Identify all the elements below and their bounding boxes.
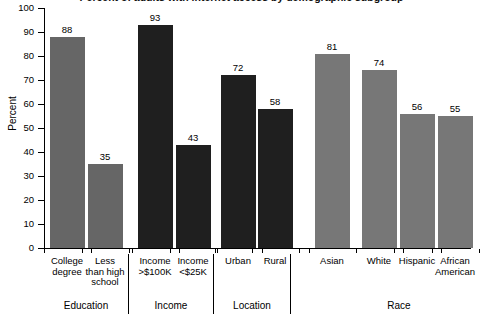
bar-hispanic-value-label: 56 — [397, 102, 437, 112]
x-tick-11 — [299, 249, 300, 253]
x-tick-14 — [356, 249, 357, 253]
x-tick-5 — [179, 249, 180, 253]
y-tick-label-30: 30 — [0, 171, 34, 181]
x-tick-6 — [170, 249, 171, 253]
bar-college-degree-value-label: 88 — [47, 25, 87, 35]
y-tick-label-40: 40 — [0, 147, 34, 157]
x-tick-4 — [132, 249, 133, 253]
bar-income-over-100k — [138, 25, 173, 248]
x-tick-3 — [129, 249, 130, 253]
bar-income-under-25k — [176, 145, 211, 248]
bar-income-over-100k-value-label: 93 — [135, 13, 175, 23]
category-label-line: African — [428, 256, 482, 267]
y-tick-label-50: 50 — [0, 123, 34, 133]
y-tick-70 — [38, 80, 44, 81]
y-tick-60 — [38, 104, 44, 105]
y-tick-label-10: 10 — [0, 219, 34, 229]
x-tick-0 — [44, 249, 45, 253]
bar-chart: Percent of adults with internet access b… — [0, 0, 483, 319]
category-label-less-than-hs: Lessthan highschool — [78, 256, 132, 288]
category-label-asian: Asian — [305, 256, 359, 267]
x-tick-2 — [82, 249, 83, 253]
category-label-rural: Rural — [248, 256, 302, 267]
x-tick-18 — [432, 249, 433, 253]
bar-urban-value-label: 72 — [218, 63, 258, 73]
bar-less-than-hs — [88, 164, 123, 248]
bar-white — [362, 70, 397, 248]
category-label-line: American — [428, 267, 482, 278]
y-tick-50 — [38, 128, 44, 129]
y-tick-40 — [38, 152, 44, 153]
y-tick-label-80: 80 — [0, 51, 34, 61]
x-tick-7 — [217, 249, 218, 253]
x-tick-9 — [262, 249, 263, 253]
category-label-line: Less — [78, 256, 132, 267]
y-tick-80 — [38, 56, 44, 57]
bar-hispanic — [400, 114, 435, 248]
category-label-african-american: AfricanAmerican — [428, 256, 482, 277]
x-tick-12 — [309, 249, 310, 253]
y-axis-title: Percent — [7, 79, 18, 149]
category-label-line: <$25K — [166, 267, 220, 278]
category-label-line: school — [78, 277, 132, 288]
y-tick-20 — [38, 200, 44, 201]
bar-less-than-hs-value-label: 35 — [85, 152, 125, 162]
bar-urban — [221, 75, 256, 248]
bar-white-value-label: 74 — [359, 58, 399, 68]
x-tick-10 — [252, 249, 253, 253]
bar-rural — [258, 109, 293, 248]
x-tick-19 — [479, 249, 480, 253]
y-tick-label-90: 90 — [0, 27, 34, 37]
chart-title: Percent of adults with internet access b… — [0, 0, 483, 3]
y-tick-100 — [38, 8, 44, 9]
bar-college-degree — [50, 37, 85, 248]
y-tick-label-60: 60 — [0, 99, 34, 109]
y-tick-label-20: 20 — [0, 195, 34, 205]
x-tick-1 — [91, 249, 92, 253]
bar-african-american-value-label: 55 — [435, 104, 475, 114]
y-axis-line — [44, 8, 45, 249]
y-tick-label-100: 100 — [0, 3, 34, 13]
y-tick-90 — [38, 32, 44, 33]
y-tick-30 — [38, 176, 44, 177]
x-axis-line — [44, 248, 471, 249]
y-tick-label-0: 0 — [0, 243, 34, 253]
x-tick-15 — [403, 249, 404, 253]
bar-african-american — [438, 116, 473, 248]
bar-asian — [315, 54, 350, 248]
y-tick-label-70: 70 — [0, 75, 34, 85]
x-tick-8 — [215, 249, 216, 253]
category-label-line: Asian — [305, 256, 359, 267]
category-label-line: Rural — [248, 256, 302, 267]
bar-rural-value-label: 58 — [255, 97, 295, 107]
x-tick-16 — [394, 249, 395, 253]
bar-asian-value-label: 81 — [312, 42, 352, 52]
group-label-location: Location — [197, 300, 307, 311]
x-tick-17 — [441, 249, 442, 253]
group-label-race: Race — [344, 300, 454, 311]
bar-income-under-25k-value-label: 43 — [173, 133, 213, 143]
y-tick-10 — [38, 224, 44, 225]
